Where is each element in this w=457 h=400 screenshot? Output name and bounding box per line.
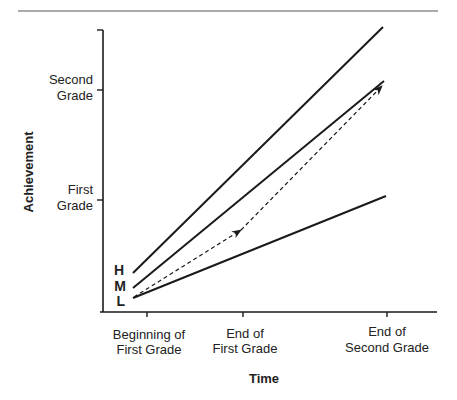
x-tick-label-endsecond-line1: End of xyxy=(368,324,406,339)
x-tick-label-begin-line1: Beginning of xyxy=(113,327,186,342)
y-axis-title: Achievement xyxy=(21,131,36,213)
x-tick-label-endfirst-line1: End of xyxy=(226,326,264,341)
series-label-h: H xyxy=(114,262,124,278)
x-axis-title: Time xyxy=(249,371,279,386)
y-tick-label-first-line1: First xyxy=(68,182,94,197)
dashed-trajectory-segment-1 xyxy=(134,230,241,297)
series-line-m xyxy=(133,81,384,288)
x-tick-label-endfirst-line2: First Grade xyxy=(212,341,277,356)
series-label-l: L xyxy=(116,293,125,309)
x-tick-label-begin-line2: First Grade xyxy=(116,342,181,357)
y-tick-label-first-line2: Grade xyxy=(57,198,93,213)
achievement-chart: Second Grade First Grade Beginning of Fi… xyxy=(0,0,457,400)
x-axis xyxy=(100,312,437,317)
series-line-h xyxy=(133,27,383,273)
series-line-l xyxy=(133,196,386,298)
series-label-m: M xyxy=(114,278,126,294)
y-tick-label-second-line2: Grade xyxy=(57,88,93,103)
x-tick-label-endsecond-line2: Second Grade xyxy=(345,340,429,355)
y-tick-label-second-line1: Second xyxy=(49,72,93,87)
dashed-trajectory-segment-2 xyxy=(241,86,382,230)
y-axis xyxy=(97,30,103,312)
